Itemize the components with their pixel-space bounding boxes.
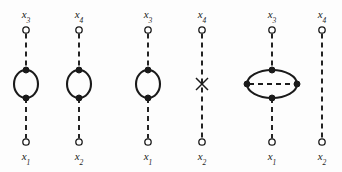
- diagram-5: [244, 27, 300, 145]
- label-subscript: 1: [27, 158, 31, 167]
- loop-circle: [14, 70, 38, 98]
- bottom-vertex-label-4: x2: [198, 150, 207, 165]
- loop-circle: [67, 70, 91, 98]
- label-subscript: 2: [80, 158, 84, 167]
- label-subscript: 1: [149, 158, 153, 167]
- endpoint-node-top: [319, 27, 325, 33]
- endpoint-node-top: [145, 27, 151, 33]
- endpoint-node-bottom: [145, 139, 151, 145]
- label-subscript: 1: [273, 158, 277, 167]
- vertex-dot-bottom: [145, 95, 151, 101]
- vertex-dot-right: [294, 81, 300, 87]
- label-subscript: 4: [80, 16, 84, 25]
- figure-container: x3x4x3x4x3x4x1x2x1x2x1x2: [0, 0, 342, 172]
- bottom-vertex-label-5: x1: [268, 150, 277, 165]
- endpoint-node-top: [199, 27, 205, 33]
- diagram-3: [136, 27, 160, 145]
- diagram-canvas: [0, 0, 342, 172]
- endpoint-node-bottom: [199, 139, 205, 145]
- top-vertex-label-2: x4: [75, 8, 84, 23]
- endpoint-node-bottom: [319, 139, 325, 145]
- label-subscript: 2: [203, 158, 207, 167]
- diagram-6: [319, 27, 325, 145]
- top-vertex-label-1: x3: [22, 8, 31, 23]
- top-vertex-label-5: x3: [268, 8, 277, 23]
- endpoint-node-top: [76, 27, 82, 33]
- bottom-vertex-label-2: x2: [75, 150, 84, 165]
- top-vertex-label-4: x4: [198, 8, 207, 23]
- diagram-1: [14, 27, 38, 145]
- vertex-dot-top: [145, 67, 151, 73]
- endpoint-node-bottom: [76, 139, 82, 145]
- label-subscript: 4: [203, 16, 207, 25]
- vertex-dot-bottom: [269, 95, 275, 101]
- bottom-vertex-label-3: x1: [144, 150, 153, 165]
- label-subscript: 2: [323, 158, 327, 167]
- label-subscript: 4: [323, 16, 327, 25]
- vertex-dot-bottom: [23, 95, 29, 101]
- diagram-4: [196, 27, 208, 145]
- vertex-dot-top: [23, 67, 29, 73]
- top-vertex-label-6: x4: [318, 8, 327, 23]
- vertex-dot-left: [244, 81, 250, 87]
- loop-circle: [136, 70, 160, 98]
- diagram-2: [67, 27, 91, 145]
- endpoint-node-top: [23, 27, 29, 33]
- bottom-vertex-label-1: x1: [22, 150, 31, 165]
- endpoint-node-bottom: [269, 139, 275, 145]
- top-vertex-label-3: x3: [144, 8, 153, 23]
- vertex-dot-bottom: [76, 95, 82, 101]
- label-subscript: 3: [27, 16, 31, 25]
- bottom-vertex-label-6: x2: [318, 150, 327, 165]
- vertex-dot-top: [76, 67, 82, 73]
- label-subscript: 3: [149, 16, 153, 25]
- vertex-dot-top: [269, 67, 275, 73]
- label-subscript: 3: [273, 16, 277, 25]
- endpoint-node-top: [269, 27, 275, 33]
- endpoint-node-bottom: [23, 139, 29, 145]
